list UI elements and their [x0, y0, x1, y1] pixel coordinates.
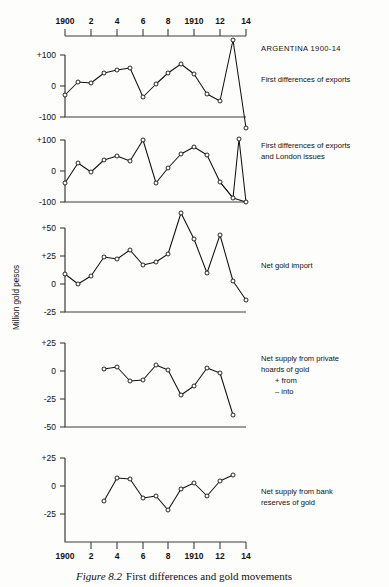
x-tick-label-2: 2	[89, 16, 94, 26]
caption-text: Figure 8.2First differences and gold mov…	[75, 570, 292, 582]
x-tick-label-1910: 1910	[185, 16, 204, 26]
panel2-label-line-1: First differences of exports	[261, 141, 351, 150]
figure-8-2: Million gold pesos 1900 2 4 6 8 1910 12 …	[0, 0, 389, 587]
figure-background	[0, 0, 389, 587]
panel4-ytick-plus25: +25	[42, 338, 57, 348]
x-bottom-label-4: 4	[115, 551, 120, 561]
panel1-label-line-1: First differences of exports	[261, 75, 351, 84]
x-bottom-label-6: 6	[141, 551, 146, 561]
x-tick-label-1900: 1900	[56, 16, 75, 26]
panel3-ytick-plus50: +50	[42, 223, 57, 233]
panel5-ytick-minus25: -25	[44, 509, 57, 519]
panel4-label-line-1: Net supply from private	[261, 354, 339, 363]
panel3-ytick-plus25: +25	[42, 251, 57, 261]
panel3-ytick-minus25: -25	[44, 307, 57, 317]
figure-caption: Figure 8.2First differences and gold mov…	[75, 570, 292, 582]
panel5-ytick-plus25: +25	[42, 453, 57, 463]
x-tick-label-4: 4	[115, 16, 120, 26]
x-bottom-label-1900: 1900	[56, 551, 75, 561]
panel1-ytick-minus100: -100	[39, 112, 56, 122]
panel4-ytick-minus25: -25	[44, 394, 57, 404]
y-axis-title: Million gold pesos	[12, 265, 21, 330]
panel2-ytick-plus100: +100	[37, 135, 56, 145]
panel4-label-sub-2: – into	[275, 387, 294, 396]
panel4-ytick-zero: 0	[51, 366, 56, 376]
panel4-label-sub-1: + from	[275, 376, 297, 385]
x-bottom-label-12: 12	[215, 551, 225, 561]
panel3-ytick-zero: 0	[51, 279, 56, 289]
x-tick-label-8: 8	[166, 16, 171, 26]
panel2-ytick-zero: 0	[51, 166, 56, 176]
panel3-label-line-1: Net gold import	[261, 261, 313, 270]
panel5-label-line-2: reserves of gold	[261, 498, 315, 507]
x-tick-label-6: 6	[141, 16, 146, 26]
x-bottom-label-8: 8	[166, 551, 171, 561]
panel5-label-line-1: Net supply from bank	[261, 487, 333, 496]
panel1-ytick-zero: 0	[51, 81, 56, 91]
x-bottom-label-1910: 1910	[185, 551, 204, 561]
panel1-header-title: ARGENTINA 1900-14	[261, 44, 341, 53]
panel4-label-line-2: hoards of gold	[261, 365, 309, 374]
panel1-ytick-plus100: +100	[37, 50, 56, 60]
x-tick-label-12: 12	[215, 16, 225, 26]
x-bottom-label-14: 14	[241, 551, 251, 561]
panel2-ytick-minus100: -100	[39, 197, 56, 207]
panel5-ytick-zero: 0	[51, 481, 56, 491]
x-bottom-label-2: 2	[89, 551, 94, 561]
x-tick-label-14: 14	[241, 16, 251, 26]
caption-body: First differences and gold movements	[126, 570, 292, 582]
panel2-label-line-2: and London issues	[261, 152, 325, 161]
caption-figure-number: Figure 8.2	[75, 570, 123, 582]
panel4-ytick-minus50: -50	[44, 422, 57, 432]
